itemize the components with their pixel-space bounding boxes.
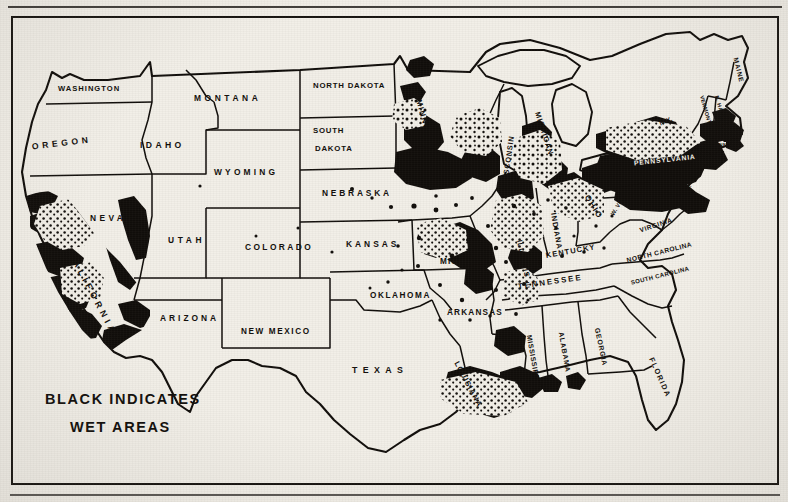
state-label-nevada: NEVADA	[90, 214, 145, 223]
state-label-wyoming: WYOMING	[214, 168, 278, 177]
state-label-nebraska: NEBRASKA	[322, 189, 392, 198]
state-label-north-dakota: NORTH DAKOTA	[313, 82, 385, 90]
map-legend: BLACK INDICATES WET AREAS	[45, 385, 201, 442]
state-label-new-mexico: NEW MEXICO	[241, 328, 311, 337]
state-label-colorado: COLORADO	[245, 243, 313, 252]
state-label-arkansas: ARKANSAS	[447, 309, 503, 318]
state-label-md: MD.	[681, 183, 692, 189]
state-label-south: SOUTH	[313, 127, 344, 135]
state-label-n-j: N.J.	[695, 165, 706, 171]
state-label-conn: CONN.	[711, 143, 729, 148]
state-label-missouri: MISSOURI	[440, 258, 490, 267]
state-label-utah: UTAH	[168, 236, 205, 245]
state-label-iowa: IOWA	[417, 172, 457, 181]
state-label-dakota: DAKOTA	[315, 145, 353, 153]
state-label-mass: MASS.	[723, 127, 742, 133]
wet-mobile	[566, 372, 586, 390]
state-label-kansas: KANSAS	[346, 240, 399, 249]
state-label-washington: WASHINGTON	[58, 85, 120, 93]
legend-line-2: WET AREAS	[70, 413, 201, 441]
map-page: WASHINGTONOREGONIDAHOMONTANAWYOMINGNEVAD…	[0, 0, 788, 502]
state-label-oklahoma: OKLAHOMA	[370, 292, 431, 301]
state-label-idaho: IDAHO	[140, 141, 185, 150]
legend-line-1: BLACK INDICATES	[45, 391, 201, 407]
state-label-arizona: ARIZONA	[160, 314, 219, 323]
state-label-montana: MONTANA	[194, 94, 261, 103]
state-label-texas: TEXAS	[352, 366, 408, 375]
